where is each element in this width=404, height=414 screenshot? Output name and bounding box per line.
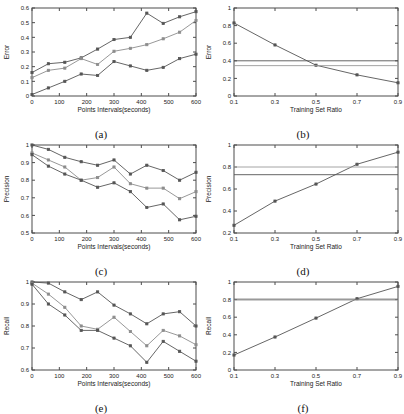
data-point: [64, 166, 66, 168]
subplot-e: 01002003004005006000.60.70.80.91Points I…: [0, 274, 202, 412]
x-tick-label: 0.9: [394, 236, 403, 242]
x-tick-label: 100: [54, 236, 65, 242]
data-point: [195, 171, 197, 173]
data-point: [195, 215, 197, 217]
data-point: [195, 19, 197, 21]
x-tick-label: 300: [109, 99, 120, 105]
series-curve: [234, 286, 398, 355]
subplot-e-caption: (e): [0, 402, 202, 414]
data-point: [315, 317, 317, 319]
data-point: [162, 22, 164, 24]
data-point: [47, 159, 49, 161]
data-point: [64, 156, 66, 158]
x-tick-label: 0.3: [271, 236, 280, 242]
series-upper: [32, 145, 196, 180]
data-point: [397, 151, 399, 153]
subplot-f-canvas: 0.10.30.50.70.900.20.40.60.81Training Se…: [202, 274, 404, 392]
subplot-a-plot: 010020030040050060000.10.20.30.40.50.6Po…: [0, 0, 202, 118]
x-tick-label: 0.1: [230, 236, 239, 242]
x-tick-label: 200: [82, 236, 93, 242]
plot-frame: [234, 145, 398, 233]
y-tick-label: 0.6: [223, 314, 232, 320]
y-tick-label: 0.7: [21, 195, 30, 201]
data-point: [113, 316, 115, 318]
x-tick-label: 0.7: [353, 373, 362, 379]
x-tick-label: 400: [136, 236, 147, 242]
x-tick-label: 600: [191, 99, 202, 105]
subplot-e-plot: 01002003004005006000.60.70.80.91Points I…: [0, 274, 202, 392]
x-tick-label: 0.3: [271, 99, 280, 105]
data-point: [64, 61, 66, 63]
y-tick-label: 0.1: [21, 79, 30, 85]
x-tick-label: 300: [109, 236, 120, 242]
data-point: [356, 74, 358, 76]
y-tick-label: 1: [228, 142, 232, 148]
subplot-c-canvas: 01002003004005006000.50.60.70.80.91Point…: [0, 137, 202, 255]
x-tick-label: 0.9: [394, 99, 403, 105]
subplot-f: 0.10.30.50.70.900.20.40.60.81Training Se…: [202, 274, 404, 412]
data-point: [129, 313, 131, 315]
x-tick-label: 0.1: [230, 373, 239, 379]
data-point: [47, 148, 49, 150]
data-point: [113, 60, 115, 62]
series-middle: [32, 20, 196, 77]
data-point: [162, 203, 164, 205]
data-point: [129, 345, 131, 347]
data-point: [179, 198, 181, 200]
data-point: [195, 191, 197, 193]
plot-frame: [32, 282, 196, 370]
data-point: [179, 16, 181, 18]
data-point: [146, 361, 148, 363]
data-point: [47, 293, 49, 295]
x-tick-label: 500: [164, 99, 175, 105]
x-axis-label: Training Set Ratio: [290, 106, 342, 114]
data-point: [195, 53, 197, 55]
data-point: [179, 335, 181, 337]
y-tick-label: 1: [228, 279, 232, 285]
data-point: [97, 329, 99, 331]
y-tick-label: 0.4: [223, 332, 232, 338]
data-point: [179, 219, 181, 221]
y-tick-label: 0.6: [21, 367, 30, 373]
y-tick-label: 0.6: [21, 5, 30, 11]
y-tick-label: 0.4: [21, 35, 30, 41]
subplot-d-canvas: 0.10.30.50.70.90.20.40.60.81Training Set…: [202, 137, 404, 255]
series-lower: [32, 155, 196, 220]
data-point: [80, 299, 82, 301]
x-tick-label: 100: [54, 99, 65, 105]
data-point: [129, 65, 131, 67]
data-point: [97, 74, 99, 76]
data-point: [179, 179, 181, 181]
y-tick-label: 1: [228, 5, 232, 11]
data-point: [31, 144, 33, 146]
y-tick-label: 0: [26, 93, 30, 99]
data-point: [195, 325, 197, 327]
y-tick-label: 0.8: [21, 177, 30, 183]
x-tick-label: 0.3: [271, 373, 280, 379]
x-tick-label: 200: [82, 99, 93, 105]
data-point: [233, 354, 235, 356]
data-point: [64, 314, 66, 316]
data-point: [113, 182, 115, 184]
plot-frame: [32, 145, 196, 233]
x-tick-label: 0.5: [312, 373, 321, 379]
y-tick-label: 0.2: [223, 76, 232, 82]
x-axis-label: Training Set Ratio: [290, 243, 342, 251]
data-point: [195, 11, 197, 13]
data-point: [274, 336, 276, 338]
data-point: [80, 179, 82, 181]
data-point: [31, 93, 33, 95]
plot-frame: [234, 282, 398, 370]
data-point: [146, 187, 148, 189]
data-point: [146, 345, 148, 347]
subplot-f-plot: 0.10.30.50.70.900.20.40.60.81Training Se…: [202, 274, 404, 392]
data-point: [97, 164, 99, 166]
x-tick-label: 500: [164, 236, 175, 242]
y-axis-label: Error: [3, 44, 10, 59]
series-lower: [32, 284, 196, 362]
x-tick-label: 0: [30, 99, 34, 105]
subplot-a-canvas: 010020030040050060000.10.20.30.40.50.6Po…: [0, 0, 202, 118]
x-axis-label: Points Intervals(seconds): [78, 380, 151, 388]
data-point: [97, 291, 99, 293]
data-point: [162, 329, 164, 331]
